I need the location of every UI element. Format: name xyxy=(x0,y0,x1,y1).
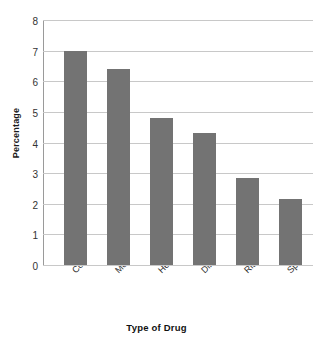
bar-speedball xyxy=(279,199,302,265)
y-tick-label-4: 4 xyxy=(32,138,38,149)
y-tick-label-8: 8 xyxy=(32,16,38,27)
x-axis-tick-labels: CocaineMorphineHeroinDilaudidRitalinSpee… xyxy=(43,266,313,318)
plot-area: 012345678 xyxy=(43,21,313,266)
bar-dilaudid xyxy=(193,133,216,265)
y-axis-line xyxy=(43,21,44,266)
bar-cocaine xyxy=(64,51,87,265)
y-axis-title-text: Percentage xyxy=(11,107,21,158)
y-tick-label-6: 6 xyxy=(32,77,38,88)
y-axis-title: Percentage xyxy=(8,0,24,265)
x-axis-title: Type of Drug xyxy=(0,322,313,333)
y-tick-label-5: 5 xyxy=(32,107,38,118)
gridline-8 xyxy=(43,20,313,21)
y-tick-label-0: 0 xyxy=(32,261,38,272)
x-tick-label-cocaine: Cocaine xyxy=(70,266,100,275)
x-tick-label-ritalin: Ritalin xyxy=(242,266,267,275)
y-tick-label-2: 2 xyxy=(32,199,38,210)
x-tick-label-dilaudid: Dilaudid xyxy=(199,266,229,275)
bar-morphine xyxy=(107,69,130,265)
y-tick-label-7: 7 xyxy=(32,46,38,57)
x-tick-label-speedball: Speedball xyxy=(285,266,314,275)
y-tick-label-1: 1 xyxy=(32,230,38,241)
x-tick-label-heroin: Heroin xyxy=(156,266,182,275)
clipped-top-text-artifact xyxy=(0,0,313,7)
y-tick-label-3: 3 xyxy=(32,169,38,180)
plot-inner: 012345678 xyxy=(43,21,313,266)
bar-ritalin xyxy=(236,178,259,265)
bar-heroin xyxy=(150,118,173,265)
x-tick-label-morphine: Morphine xyxy=(113,266,147,275)
bar-chart-figure: Percentage 012345678 CocaineMorphineHero… xyxy=(0,0,313,343)
